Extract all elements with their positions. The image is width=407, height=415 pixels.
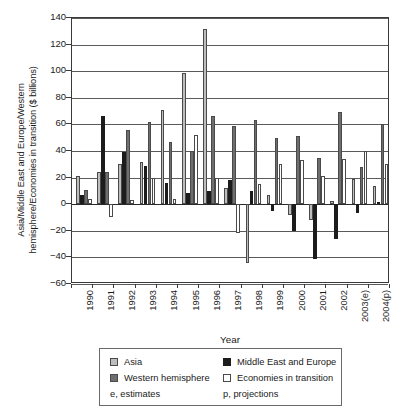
bar-1995-western-hemisphere (190, 151, 194, 204)
bar-2003(e)-middle-east-and-europe (356, 204, 360, 213)
y-tick-label-0: 0 (26, 198, 66, 208)
legend-label-economies-in-transition: Economies in transition (237, 373, 333, 383)
gridline--60 (72, 284, 388, 285)
y-tick-label-120: 120 (26, 39, 66, 49)
x-tick-mark-1 (92, 284, 93, 288)
x-tick-mark-15 (389, 284, 390, 288)
bar-1999-middle-east-and-europe (271, 204, 275, 211)
x-tick-label-2000: 2000 (298, 290, 307, 311)
x-tick-mark-11 (304, 284, 305, 288)
bar-2003(e)-asia (352, 179, 356, 204)
bar-1997-middle-east-and-europe (228, 180, 232, 204)
legend-row: Asia Middle East and Europe (100, 354, 341, 370)
legend-label-western-hemisphere: Western hemisphere (124, 373, 210, 383)
legend-item-middle-east-and-europe: Middle East and Europe (217, 357, 341, 367)
x-tick-label-1995: 1995 (192, 290, 201, 311)
bar-1990-economies-in-transition (88, 199, 92, 204)
x-tick-mark-8 (241, 284, 242, 288)
x-tick-label-2001: 2001 (319, 290, 328, 311)
y-axis-title-line1: Asia/Middle East and Europe/Western (15, 83, 28, 236)
bar-1996-middle-east-and-europe (207, 191, 211, 204)
bar-1992-economies-in-transition (130, 200, 134, 205)
bar-1990-western-hemisphere (84, 190, 88, 205)
bar-1995-economies-in-transition (194, 135, 198, 204)
y-tick-label--20: −20 (26, 225, 66, 235)
bar-2003(e)-western-hemisphere (360, 167, 364, 204)
bar-1992-middle-east-and-europe (122, 152, 126, 204)
y-tick-label--40: −40 (26, 251, 66, 261)
legend-swatch-western-hemisphere (110, 374, 118, 382)
bar-2000-economies-in-transition (300, 160, 304, 204)
bar-2004(p)-economies-in-transition (385, 164, 388, 204)
bar-2002-asia (330, 201, 334, 204)
bar-1998-economies-in-transition (258, 184, 262, 204)
y-tick-label-20: 20 (26, 172, 66, 182)
legend-notes-row: e, estimates p, projections (100, 386, 341, 402)
x-tick-mark-2 (113, 284, 114, 288)
bar-1992-asia (118, 164, 122, 204)
plot-area (71, 17, 389, 283)
x-tick-label-1993: 1993 (149, 290, 158, 311)
bar-1994-asia (161, 110, 165, 204)
bar-1992-western-hemisphere (126, 130, 130, 204)
bar-2001-middle-east-and-europe (313, 204, 317, 259)
x-tick-label-1996: 1996 (213, 290, 222, 311)
x-tick-mark-0 (71, 284, 72, 288)
y-tick-label-40: 40 (26, 145, 66, 155)
x-tick-mark-7 (219, 284, 220, 288)
bar-1991-middle-east-and-europe (101, 116, 105, 204)
bar-1998-asia (246, 204, 250, 263)
x-tick-mark-3 (135, 284, 136, 288)
legend-note-projections-text: p, projections (223, 389, 278, 399)
legend-note-estimates-text: e, estimates (110, 389, 160, 399)
x-tick-label-1992: 1992 (128, 290, 137, 311)
x-tick-label-1994: 1994 (170, 290, 179, 311)
bar-1999-asia (267, 195, 271, 204)
x-tick-label-2003(e): 2003(e) (361, 290, 370, 322)
bar-2003(e)-economies-in-transition (364, 151, 368, 204)
x-tick-label-1997: 1997 (234, 290, 243, 311)
x-axis-title: Year (71, 334, 389, 345)
x-tick-label-2004(p): 2004(p) (382, 290, 391, 322)
bars-layer (72, 18, 388, 282)
chart-legend: Asia Middle East and Europe Western hemi… (99, 348, 342, 406)
bar-1994-middle-east-and-europe (165, 183, 169, 204)
bar-1995-middle-east-and-europe (186, 193, 190, 204)
bar-2000-western-hemisphere (296, 136, 300, 204)
bar-2001-western-hemisphere (317, 158, 321, 205)
y-tick-label-60: 60 (26, 118, 66, 128)
bar-1993-economies-in-transition (152, 178, 156, 205)
bar-2004(p)-asia (373, 186, 377, 205)
bar-1991-western-hemisphere (105, 172, 109, 204)
bar-2000-asia (288, 204, 292, 215)
bar-1998-western-hemisphere (254, 120, 258, 204)
bar-1997-economies-in-transition (236, 204, 240, 233)
x-tick-label-2002: 2002 (340, 290, 349, 311)
bar-2001-asia (309, 204, 313, 220)
y-tick-label-80: 80 (26, 92, 66, 102)
bar-1997-asia (224, 188, 228, 204)
legend-item-economies-in-transition: Economies in transition (217, 373, 341, 383)
bar-2004(p)-middle-east-and-europe (377, 202, 381, 204)
bar-2004(p)-western-hemisphere (381, 124, 385, 204)
bar-1999-economies-in-transition (279, 164, 283, 204)
bar-1991-asia (97, 172, 101, 204)
bar-1990-asia (76, 176, 80, 204)
bar-1994-western-hemisphere (169, 142, 173, 205)
legend-swatch-economies-in-transition (223, 374, 231, 382)
bar-1996-western-hemisphere (211, 116, 215, 204)
legend-item-western-hemisphere: Western hemisphere (100, 373, 217, 383)
bar-2001-economies-in-transition (321, 176, 325, 204)
legend-note-estimates: e, estimates (100, 389, 217, 399)
bar-1998-middle-east-and-europe (250, 191, 254, 204)
x-tick-mark-10 (283, 284, 284, 288)
x-tick-mark-9 (262, 284, 263, 288)
bar-1993-asia (140, 162, 144, 205)
bar-1993-western-hemisphere (148, 122, 152, 204)
x-tick-label-1998: 1998 (255, 290, 264, 311)
bar-2000-middle-east-and-europe (292, 204, 296, 231)
legend-note-projections: p, projections (217, 389, 341, 399)
bar-2002-western-hemisphere (338, 112, 342, 204)
bar-1997-western-hemisphere (232, 126, 236, 204)
legend-label-asia: Asia (124, 357, 142, 367)
